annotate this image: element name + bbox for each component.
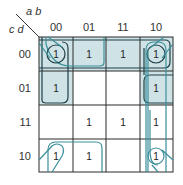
row-label-01: 01: [19, 82, 31, 94]
cell-11-10: 1: [153, 117, 159, 128]
row-label-11: 11: [20, 116, 31, 128]
row-label-00: 00: [19, 48, 31, 60]
row-variables-label: c d: [9, 23, 25, 35]
cell-10-00: 1: [53, 151, 59, 162]
col-label-00: 00: [50, 21, 62, 33]
cell-10-10: 1: [153, 151, 159, 162]
cell-11-01: 1: [86, 117, 92, 128]
cell-01-10: 1: [153, 83, 159, 94]
cell-10-01: 1: [86, 151, 92, 162]
row-label-10: 10: [19, 150, 31, 162]
cell-11-11: 1: [120, 117, 126, 128]
col-label-10: 10: [150, 21, 162, 33]
cell-01-00: 1: [53, 83, 59, 94]
cell-00-10: 1: [153, 49, 159, 60]
col-label-01: 01: [83, 21, 95, 33]
cell-00-01: 1: [86, 49, 92, 60]
col-label-11: 11: [117, 21, 128, 33]
col-variables-label: a b: [26, 5, 41, 17]
cell-00-11: 1: [120, 49, 126, 60]
cell-00-00: 1: [53, 49, 59, 60]
karnaugh-map: a b c d 00 01 11 10 00 01 11 10 1 1 1 1 …: [0, 0, 183, 185]
